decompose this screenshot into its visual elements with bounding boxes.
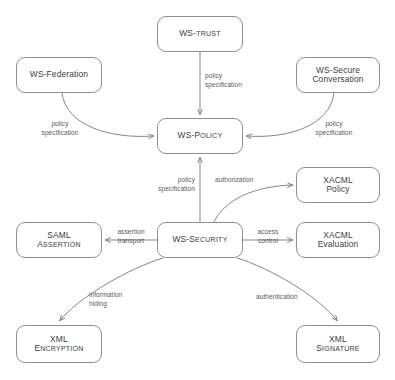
diagram-canvas: WS-TRUST WS-Federation WS-Secure Convers…	[0, 0, 395, 380]
edge-label-access-control-line1: access	[248, 228, 288, 237]
edge-label-access-control: access control	[248, 228, 288, 245]
edge-security-to-xml-signature	[237, 258, 337, 321]
node-saml-assertion-label-line2: ASSERTION	[37, 240, 80, 249]
node-xml-signature-label-line2: SIGNATURE	[316, 344, 359, 353]
node-xacml-policy-label-line2: Policy	[326, 185, 349, 194]
node-ws-policy-label: WS-POLICY	[178, 131, 223, 140]
edge-label-secureconv-to-policy: policy specification	[298, 120, 370, 137]
node-xml-signature[interactable]: XML SIGNATURE	[296, 325, 380, 363]
edge-label-assertion-transport-line2: transport	[108, 237, 154, 246]
edge-label-information-hiding-line1: information	[89, 291, 122, 300]
node-xacml-evaluation[interactable]: XACML Evaluation	[296, 222, 380, 258]
edge-label-security-to-policy-line1: policy	[133, 176, 195, 185]
edge-label-federation-to-policy-line1: policy	[24, 120, 96, 129]
edge-label-secureconv-to-policy-line1: policy	[298, 120, 370, 129]
node-ws-secure-conversation-label-line2: Conversation	[312, 75, 363, 84]
node-xml-encryption-label-line2: ENCRYPTION	[34, 344, 83, 353]
node-ws-security[interactable]: WS-SECURITY	[157, 222, 243, 258]
edge-label-authorization: authorization	[215, 176, 253, 185]
edge-security-to-xml-encryption	[60, 258, 163, 321]
edge-label-information-hiding: information hiding	[89, 291, 122, 308]
edge-label-security-to-policy-line2: specification	[133, 185, 195, 194]
node-ws-secure-conversation[interactable]: WS-Secure Conversation	[296, 57, 380, 93]
node-xml-encryption[interactable]: XML ENCRYPTION	[16, 325, 102, 363]
edge-label-access-control-line2: control	[248, 237, 288, 246]
node-saml-assertion[interactable]: SAML ASSERTION	[16, 222, 102, 258]
node-xacml-policy[interactable]: XACML Policy	[296, 167, 380, 203]
edge-label-information-hiding-line2: hiding	[89, 300, 122, 309]
node-ws-policy[interactable]: WS-POLICY	[157, 118, 243, 154]
node-xml-encryption-label-line1: XML	[50, 335, 68, 344]
node-saml-assertion-label-line1: SAML	[47, 231, 71, 240]
edge-label-assertion-transport-line1: assertion	[108, 228, 154, 237]
edge-label-trust-to-policy: policy specification	[205, 72, 242, 89]
node-ws-trust-label: WS-TRUST	[179, 29, 220, 38]
node-xacml-evaluation-label-line2: Evaluation	[318, 240, 359, 249]
edge-label-assertion-transport: assertion transport	[108, 228, 154, 245]
node-ws-security-label: WS-SECURITY	[172, 235, 227, 244]
edge-security-to-xacml-policy	[214, 185, 293, 222]
edge-label-authorization-line1: authorization	[215, 176, 253, 185]
edge-label-federation-to-policy: policy specification	[24, 120, 96, 137]
node-xml-signature-label-line1: XML	[329, 335, 347, 344]
edge-label-authentication-line1: authentication	[256, 293, 298, 302]
node-ws-federation[interactable]: WS-Federation	[16, 57, 102, 93]
node-ws-federation-label: WS-Federation	[30, 70, 88, 79]
edge-label-trust-to-policy-line1: policy	[205, 72, 242, 81]
edge-label-secureconv-to-policy-line2: specification	[298, 129, 370, 138]
edge-label-security-to-policy: policy specification	[133, 176, 195, 193]
edge-label-federation-to-policy-line2: specification	[24, 129, 96, 138]
edge-label-authentication: authentication	[256, 293, 298, 302]
node-ws-trust[interactable]: WS-TRUST	[157, 16, 243, 52]
edge-label-trust-to-policy-line2: specification	[205, 81, 242, 90]
